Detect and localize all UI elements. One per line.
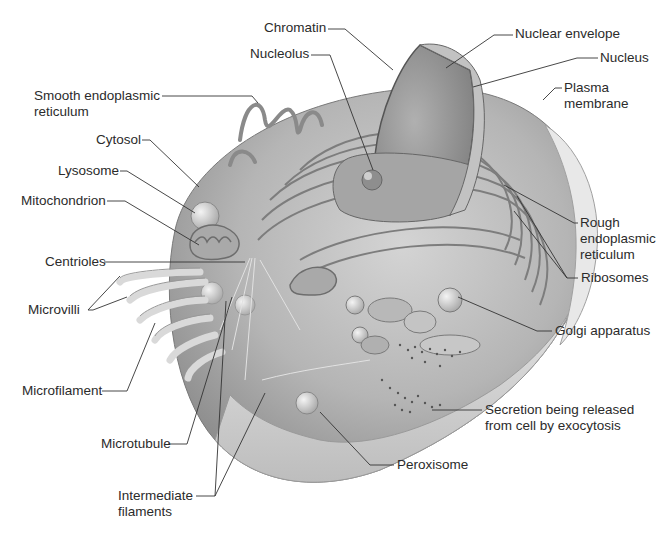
label-smooth-er: Smooth endoplasmic reticulum	[34, 88, 174, 120]
label-mitochondrion: Mitochondrion	[21, 193, 106, 209]
label-microfilament: Microfilament	[22, 383, 102, 399]
label-line: Rough	[580, 215, 670, 231]
label-golgi-apparatus: Golgi apparatus	[555, 323, 650, 339]
label-line: membrane	[564, 96, 664, 112]
label-line: from cell by exocytosis	[485, 418, 670, 434]
label-secretion: Secretion being released from cell by ex…	[485, 402, 670, 434]
label-line: filaments	[118, 504, 218, 520]
label-line: Intermediate	[118, 488, 218, 504]
label-line: Smooth endoplasmic	[34, 88, 174, 104]
label-ribosomes: Ribosomes	[581, 270, 649, 286]
label-rough-er: Rough endoplasmic reticulum	[580, 215, 670, 263]
label-microvilli: Microvilli	[28, 302, 80, 318]
peroxisome-shape	[296, 392, 318, 414]
label-line: reticulum	[580, 247, 670, 263]
label-cytosol: Cytosol	[96, 132, 141, 148]
label-microtubule: Microtubule	[101, 436, 171, 452]
label-line: Plasma	[564, 80, 664, 96]
label-nuclear-envelope: Nuclear envelope	[515, 26, 620, 42]
cell-diagram: Chromatin Nucleolus Nuclear envelope Nuc…	[0, 0, 671, 537]
label-nucleus: Nucleus	[600, 50, 649, 66]
label-line: reticulum	[34, 104, 174, 120]
label-line: endoplasmic	[580, 231, 670, 247]
label-nucleolus: Nucleolus	[250, 46, 309, 62]
label-chromatin: Chromatin	[264, 20, 326, 36]
label-line: Secretion being released	[485, 402, 670, 418]
label-centrioles: Centrioles	[45, 254, 106, 270]
label-plasma-membrane: Plasma membrane	[564, 80, 664, 112]
label-lysosome: Lysosome	[58, 163, 119, 179]
label-peroxisome: Peroxisome	[397, 457, 468, 473]
label-intermediate-filaments: Intermediate filaments	[118, 488, 218, 520]
